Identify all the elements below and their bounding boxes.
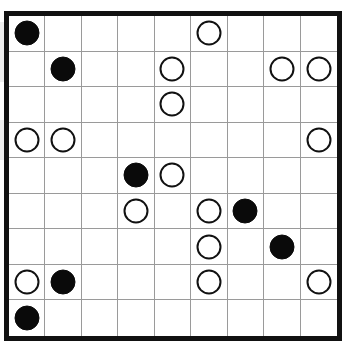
grid-cell-r4c1[interactable] [9,123,45,159]
white-stone[interactable] [196,270,221,295]
grid-cell-r6c1[interactable] [9,194,45,230]
grid-cell-r1c5[interactable] [155,16,191,52]
white-stone[interactable] [306,127,331,152]
grid-cell-r9c4[interactable] [118,300,154,336]
grid-cell-r1c2[interactable] [45,16,81,52]
grid-cell-r3c2[interactable] [45,87,81,123]
grid-cell-r5c9[interactable] [301,158,337,194]
grid-cell-r7c7[interactable] [228,229,264,265]
grid-cell-r8c9[interactable] [301,265,337,301]
grid-cell-r4c7[interactable] [228,123,264,159]
grid-cell-r2c4[interactable] [118,52,154,88]
grid-cell-r8c7[interactable] [228,265,264,301]
puzzle-board[interactable] [4,11,342,341]
grid-cell-r4c5[interactable] [155,123,191,159]
grid-cell-r6c6[interactable] [191,194,227,230]
grid-cell-r4c9[interactable] [301,123,337,159]
grid-cell-r2c2[interactable] [45,52,81,88]
grid-cell-r4c6[interactable] [191,123,227,159]
grid-cell-r1c1[interactable] [9,16,45,52]
grid-cell-r3c5[interactable] [155,87,191,123]
grid-cell-r6c5[interactable] [155,194,191,230]
grid-cell-r9c8[interactable] [264,300,300,336]
grid-cell-r2c8[interactable] [264,52,300,88]
white-stone[interactable] [196,21,221,46]
grid-cell-r2c7[interactable] [228,52,264,88]
grid-cell-r9c2[interactable] [45,300,81,336]
black-stone[interactable] [124,163,149,188]
grid-cell-r3c9[interactable] [301,87,337,123]
black-stone[interactable] [269,234,294,259]
white-stone[interactable] [306,56,331,81]
grid-cell-r7c8[interactable] [264,229,300,265]
grid-cell-r5c6[interactable] [191,158,227,194]
black-stone[interactable] [14,21,39,46]
grid-cell-r2c3[interactable] [82,52,118,88]
white-stone[interactable] [160,92,185,117]
grid-cell-r6c3[interactable] [82,194,118,230]
grid-cell-r4c4[interactable] [118,123,154,159]
grid-cell-r8c3[interactable] [82,265,118,301]
grid-cell-r7c2[interactable] [45,229,81,265]
grid-cell-r6c9[interactable] [301,194,337,230]
grid-cell-r9c1[interactable] [9,300,45,336]
white-stone[interactable] [14,270,39,295]
white-stone[interactable] [160,56,185,81]
white-stone[interactable] [306,270,331,295]
grid-cell-r2c6[interactable] [191,52,227,88]
grid-cell-r1c4[interactable] [118,16,154,52]
grid-cell-r3c3[interactable] [82,87,118,123]
grid-cell-r3c1[interactable] [9,87,45,123]
grid-cell-r1c8[interactable] [264,16,300,52]
grid-cell-r7c4[interactable] [118,229,154,265]
grid-cell-r5c1[interactable] [9,158,45,194]
grid-cell-r3c6[interactable] [191,87,227,123]
grid-cell-r6c7[interactable] [228,194,264,230]
black-stone[interactable] [233,199,258,224]
grid-cell-r2c1[interactable] [9,52,45,88]
grid-cell-r4c3[interactable] [82,123,118,159]
grid-cell-r8c2[interactable] [45,265,81,301]
grid-cell-r9c9[interactable] [301,300,337,336]
grid-cell-r5c8[interactable] [264,158,300,194]
grid-cell-r7c6[interactable] [191,229,227,265]
white-stone[interactable] [196,199,221,224]
grid-cell-r7c5[interactable] [155,229,191,265]
grid-cell-r1c9[interactable] [301,16,337,52]
black-stone[interactable] [14,306,39,331]
grid-cell-r2c9[interactable] [301,52,337,88]
grid-cell-r3c4[interactable] [118,87,154,123]
white-stone[interactable] [51,127,76,152]
grid-cell-r6c4[interactable] [118,194,154,230]
grid-cell-r8c1[interactable] [9,265,45,301]
grid-cell-r9c5[interactable] [155,300,191,336]
grid-cell-r5c3[interactable] [82,158,118,194]
grid-cell-r2c5[interactable] [155,52,191,88]
grid-cell-r6c8[interactable] [264,194,300,230]
black-stone[interactable] [51,270,76,295]
grid-cell-r5c4[interactable] [118,158,154,194]
grid-cell-r5c7[interactable] [228,158,264,194]
grid-cell-r1c3[interactable] [82,16,118,52]
grid-cell-r4c2[interactable] [45,123,81,159]
grid-cell-r7c1[interactable] [9,229,45,265]
grid-cell-r5c5[interactable] [155,158,191,194]
grid-cell-r3c7[interactable] [228,87,264,123]
white-stone[interactable] [160,163,185,188]
grid-cell-r4c8[interactable] [264,123,300,159]
white-stone[interactable] [196,234,221,259]
grid-cell-r8c5[interactable] [155,265,191,301]
grid-cell-r7c3[interactable] [82,229,118,265]
black-stone[interactable] [51,56,76,81]
grid-cell-r8c6[interactable] [191,265,227,301]
grid-cell-r7c9[interactable] [301,229,337,265]
grid-cell-r5c2[interactable] [45,158,81,194]
grid-cell-r8c4[interactable] [118,265,154,301]
white-stone[interactable] [14,127,39,152]
grid-cell-r1c6[interactable] [191,16,227,52]
white-stone[interactable] [269,56,294,81]
grid-cell-r8c8[interactable] [264,265,300,301]
grid-cell-r9c7[interactable] [228,300,264,336]
white-stone[interactable] [124,199,149,224]
grid-cell-r3c8[interactable] [264,87,300,123]
